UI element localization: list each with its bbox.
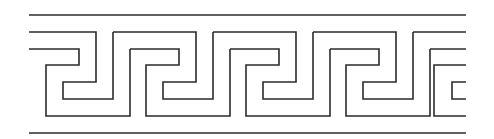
meander-end-bracket-inner (452, 82, 466, 99)
meander-units (29, 32, 466, 116)
meander-border (0, 0, 494, 139)
greek-key-pattern (0, 0, 494, 139)
meander-end-bracket-outer (434, 65, 466, 116)
